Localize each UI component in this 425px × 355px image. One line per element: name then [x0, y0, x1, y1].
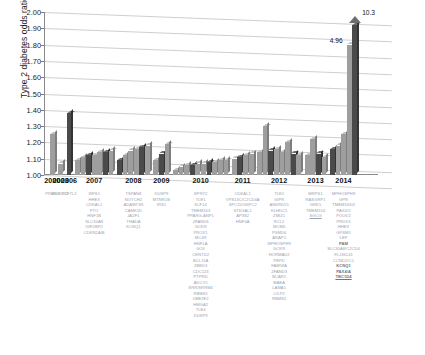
bar-value-label: 4.96	[330, 37, 343, 44]
y-tick-label: 1.70	[27, 56, 41, 65]
bar-2008-15	[145, 146, 150, 175]
bar-2012-35	[268, 151, 273, 175]
y-tick-label: 1.20	[27, 138, 41, 147]
bar-2003-1	[58, 164, 63, 175]
year-column-2009: 2009DUSP9MTNR1BIRS1	[140, 176, 182, 208]
bar-2008-11	[123, 155, 128, 175]
bar-2010-19	[173, 170, 178, 175]
gene-list: WFS1HHEXCDKAL1FTOHNF1BSLC30A8IGF2BP2CDKN…	[73, 191, 115, 235]
bar-side	[63, 159, 65, 173]
bar-2007-7	[97, 152, 102, 175]
y-tick-label: 2.00	[27, 8, 41, 17]
bar-value-label: 10.3	[362, 9, 375, 16]
gene-name: DUSP9	[180, 313, 222, 319]
bar-2011-32	[249, 154, 254, 175]
axis-break-marker	[349, 16, 361, 23]
bar-2013-41	[305, 155, 310, 175]
chart-root: Type 2 diabetes odds ratio 2.001.901.801…	[0, 0, 425, 355]
bar-side	[55, 130, 57, 173]
y-tick-label: 1.90	[27, 24, 41, 33]
year-label: 2007	[73, 176, 115, 185]
bar-2010-25	[207, 162, 212, 175]
bar-2010-27	[218, 160, 223, 175]
bar-2008-12	[128, 151, 133, 175]
year-label: 2014	[323, 176, 365, 185]
bar-2009-18	[165, 144, 170, 175]
bar-face	[218, 160, 223, 175]
bar-2011-30	[237, 157, 242, 175]
bar-2011-29	[232, 159, 237, 175]
bar-2007-8	[103, 152, 108, 175]
bar-2007-6	[92, 155, 97, 175]
bar-2014-48	[347, 45, 352, 175]
y-tick-label: 1.30	[27, 122, 41, 131]
gene-name: KCNQ1	[112, 224, 154, 230]
bar-side	[254, 149, 256, 172]
bar-2008-13	[134, 149, 139, 175]
bar-2000-0	[50, 134, 55, 175]
bar-2013-44	[322, 157, 327, 175]
bar-2007-3	[75, 160, 80, 175]
bar-2007-9	[109, 151, 114, 175]
bar-2007-5	[86, 155, 91, 175]
bar-side	[71, 109, 73, 173]
bar-2010-28	[224, 160, 229, 175]
bar-2009-16	[153, 160, 158, 175]
bar-2010-26	[212, 162, 217, 175]
bar-side	[301, 151, 303, 173]
bar-face	[347, 45, 352, 175]
bar-2012-34	[263, 126, 268, 175]
bar-2012-33	[257, 152, 262, 175]
year-column-2010: 2010SPRY2TLE1KLF14TMEM163PPARG-ANP1ZFAND…	[180, 176, 222, 319]
gene-name: CDKN2A/B	[73, 230, 115, 236]
bar-side	[150, 141, 152, 173]
bar-2008-14	[139, 147, 144, 175]
year-label: 2009	[140, 176, 182, 185]
bar-2014-49	[352, 25, 357, 175]
bar-face	[75, 160, 80, 175]
y-tick-label: 1.10	[27, 154, 41, 163]
bar-face	[134, 149, 139, 175]
bar-2007-4	[81, 157, 86, 175]
gene-list: MPHOSPH9GPRTMEM163/4PAX4/2POLK/2PRDX3HHE…	[323, 191, 365, 280]
y-tick-label: 1.40	[27, 105, 41, 114]
y-tick-label: 1.60	[27, 73, 41, 82]
bar-2009-17	[159, 154, 164, 175]
bar-face	[232, 159, 237, 175]
bar-side	[357, 21, 359, 173]
bar-face	[274, 149, 279, 175]
bar-2010-23	[195, 164, 200, 175]
bar-2010-22	[190, 165, 195, 175]
bar-2006-2	[67, 113, 72, 175]
gene-list: SPRY2TLE1KLF14TMEM163PPARG-ANP1ZFAND6GCK…	[180, 191, 222, 319]
bar-series	[44, 12, 378, 175]
bar-2008-10	[117, 160, 122, 175]
year-column-2007: 2007WFS1HHEXCDKAL1FTOHNF1BSLC30A8IGF2BP2…	[73, 176, 115, 235]
bar-2012-37	[280, 152, 285, 175]
bar-2014-46	[336, 146, 341, 175]
bar-face	[92, 155, 97, 175]
year-column-2014: 2014MPHOSPH9GPRTMEM163/4PAX4/2POLK/2PRDX…	[323, 176, 365, 280]
bar-face	[249, 154, 254, 175]
year-columns: 2000PPARG2003KCNJ112006TCF7L22007WFS1HHE…	[30, 176, 420, 354]
bar-2014-47	[341, 134, 346, 175]
bar-2010-21	[184, 165, 189, 175]
bar-2012-40	[296, 155, 301, 175]
gene-name: TBC1D4	[323, 274, 365, 280]
gene-name: RBMS2	[258, 296, 300, 302]
bar-2012-38	[285, 142, 290, 175]
y-tick-label: 1.80	[27, 40, 41, 49]
bar-face	[305, 155, 310, 175]
bar-2011-31	[243, 155, 248, 175]
year-label: 2010	[180, 176, 222, 185]
bar-2010-24	[201, 164, 206, 175]
bar-face	[330, 149, 335, 175]
y-tick-label: 1.50	[27, 89, 41, 98]
bar-face	[190, 165, 195, 175]
bar-2010-20	[179, 167, 184, 175]
bar-face	[291, 154, 296, 175]
gene-list: DUSP9MTNR1BIRS1	[140, 191, 182, 208]
bar-2012-39	[291, 154, 296, 175]
bar-2014-45	[330, 149, 335, 175]
bar-2013-42	[310, 139, 315, 175]
